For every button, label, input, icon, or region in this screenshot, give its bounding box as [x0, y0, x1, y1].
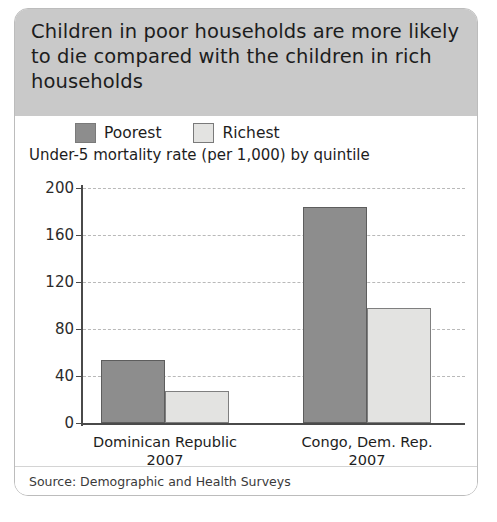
- plot-area: 04080120160200: [81, 188, 465, 423]
- bar-richest-0: [165, 391, 229, 423]
- legend-item-poorest: Poorest: [75, 123, 161, 143]
- category-label-line: Congo, Dem. Rep.: [273, 433, 461, 451]
- y-tick-mark-200: [76, 188, 81, 189]
- x-axis-line: [81, 423, 465, 425]
- legend-item-richest: Richest: [193, 123, 279, 143]
- y-tick-mark-120: [76, 282, 81, 283]
- category-label-0: Dominican Republic2007: [71, 433, 259, 469]
- category-label-line: Dominican Republic: [71, 433, 259, 451]
- y-tick-label-160: 160: [45, 226, 74, 244]
- chart-body: Poorest Richest Under-5 mortality rate (…: [15, 116, 477, 496]
- y-tick-label-40: 40: [55, 367, 74, 385]
- y-axis-line: [81, 185, 83, 426]
- gridline-160: [83, 235, 465, 237]
- legend-swatch-richest-icon: [193, 123, 214, 143]
- legend-swatch-poorest-icon: [75, 123, 96, 143]
- chart-card: Children in poor households are more lik…: [14, 8, 478, 496]
- legend-label-poorest: Poorest: [104, 124, 161, 142]
- y-tick-mark-160: [76, 235, 81, 236]
- chart-title: Children in poor households are more lik…: [31, 19, 463, 94]
- source-divider: [15, 466, 477, 467]
- y-tick-mark-0: [76, 423, 81, 424]
- chart-header-band: Children in poor households are more lik…: [15, 9, 477, 116]
- y-tick-label-200: 200: [45, 179, 74, 197]
- gridline-200: [83, 188, 465, 190]
- chart-source: Source: Demographic and Health Surveys: [29, 474, 291, 489]
- y-tick-label-120: 120: [45, 273, 74, 291]
- chart-subtitle: Under-5 mortality rate (per 1,000) by qu…: [29, 146, 370, 164]
- chart-legend: Poorest Richest: [75, 122, 280, 144]
- category-label-1: Congo, Dem. Rep.2007: [273, 433, 461, 469]
- y-tick-mark-40: [76, 376, 81, 377]
- legend-label-richest: Richest: [222, 124, 279, 142]
- y-tick-label-80: 80: [55, 320, 74, 338]
- chart-page: Children in poor households are more lik…: [0, 0, 497, 522]
- gridline-120: [83, 282, 465, 284]
- y-tick-mark-80: [76, 329, 81, 330]
- bar-richest-1: [367, 308, 431, 423]
- y-tick-label-0: 0: [64, 414, 74, 432]
- bar-poorest-0: [101, 360, 165, 423]
- bar-poorest-1: [303, 207, 367, 423]
